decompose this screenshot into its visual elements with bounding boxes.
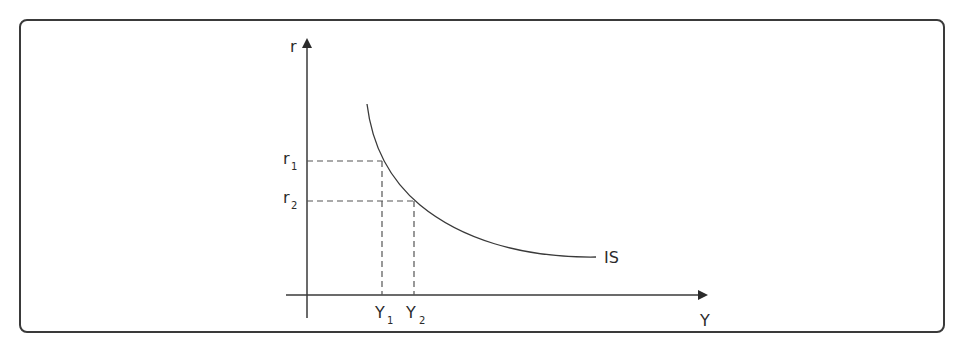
is-curve	[367, 104, 596, 257]
is-curve-diagram: r Y r 1 r 2 Y 1 Y 2 IS	[0, 0, 964, 352]
svg-text:r: r	[283, 149, 290, 168]
y-axis-label: r	[290, 37, 297, 56]
svg-text:2: 2	[291, 200, 297, 211]
svg-text:2: 2	[419, 315, 425, 326]
svg-text:1: 1	[387, 315, 393, 326]
y2-tick-label: Y 2	[405, 303, 425, 326]
r1-tick-label: r 1	[283, 149, 297, 172]
x-axis-label: Y	[699, 311, 710, 330]
svg-text:1: 1	[291, 161, 297, 172]
svg-text:Y: Y	[405, 303, 416, 322]
r2-tick-label: r 2	[283, 188, 297, 211]
y1-tick-label: Y 1	[374, 303, 393, 326]
svg-text:r: r	[283, 188, 290, 207]
svg-text:Y: Y	[374, 303, 385, 322]
is-curve-label: IS	[604, 248, 619, 267]
